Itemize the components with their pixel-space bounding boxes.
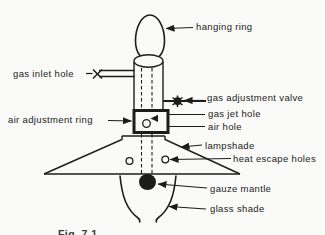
leader-lampshade <box>181 145 202 147</box>
label-gas-jet-hole: gas jet hole <box>208 109 261 119</box>
leader-heat-escape-holes <box>170 159 231 160</box>
leader-glass-shade <box>169 207 206 210</box>
hanging-ring-shape <box>136 15 165 61</box>
leader-air-adjustment-ring <box>108 121 132 122</box>
gas-inlet-hole-mark <box>93 70 102 79</box>
gauze-mantle-shape <box>139 174 156 190</box>
air-adjustment-ring-shape <box>134 111 168 133</box>
leader-hanging-ring <box>166 28 193 29</box>
label-glass-shade: glass shade <box>210 204 265 214</box>
label-lampshade: lampshade <box>205 141 255 151</box>
figure-caption: Fig. 7.1 <box>58 229 97 235</box>
label-gas-adjustment-valve: gas adjustment valve <box>207 93 303 103</box>
valve-handle-shape <box>173 96 183 108</box>
label-gauze-mantle: gauze mantle <box>210 184 271 194</box>
tube-top-shape <box>134 55 163 67</box>
inner-pipe-dashed-upper <box>142 68 153 109</box>
label-hanging-ring: hanging ring <box>196 22 253 32</box>
tube-body-shape <box>134 62 163 111</box>
gas-inlet-pipe-shape <box>99 71 135 77</box>
inner-pipe-dashed-lower <box>142 134 153 175</box>
lamp-diagram: hanging ring gas inlet hole gas adjustme… <box>0 0 325 235</box>
label-gas-inlet-hole: gas inlet hole <box>13 69 74 79</box>
label-heat-escape-holes: heat escape holes <box>233 154 316 164</box>
label-air-adjustment-ring: air adjustment ring <box>8 115 93 125</box>
leader-gauze-mantle <box>158 184 207 188</box>
label-air-hole: air hole <box>208 122 242 132</box>
heat-escape-holes-shape <box>126 156 169 164</box>
